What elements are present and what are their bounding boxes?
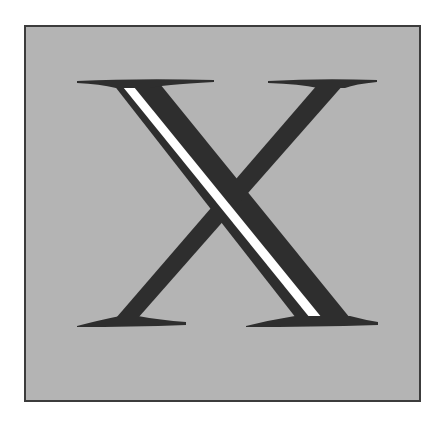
serif-bottom-left (77, 316, 186, 327)
figure-stage: X (0, 0, 439, 422)
serif-top-left (77, 79, 214, 88)
letter-x-glyph (0, 0, 439, 422)
serif-top-right (268, 79, 377, 88)
serif-bottom-right (246, 316, 378, 327)
